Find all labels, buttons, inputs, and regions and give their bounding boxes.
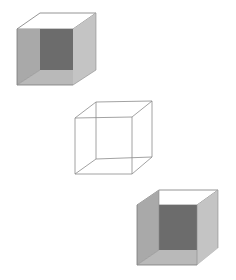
back-face (159, 205, 197, 250)
necker-cube-figure (0, 0, 236, 280)
shaded-cube-bottom-right (137, 190, 218, 265)
front-face-outline (75, 117, 132, 174)
shaded-cube-top-left (17, 13, 96, 85)
wireframe-cube-middle (75, 101, 152, 174)
back-face-outline (96, 101, 152, 159)
back-face (40, 29, 73, 70)
